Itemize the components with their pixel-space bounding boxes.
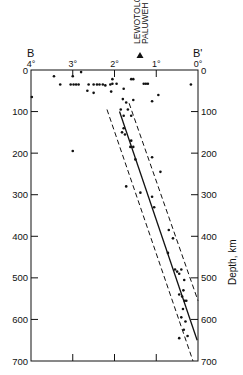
hypocenter-dot bbox=[129, 146, 132, 149]
x-tick-label: 2° bbox=[110, 59, 119, 69]
hypocenter-dot bbox=[132, 146, 135, 149]
y-tick-label-left: 400 bbox=[12, 231, 28, 242]
hypocenter-dot bbox=[125, 101, 128, 104]
hypocenter-dot bbox=[167, 252, 170, 255]
y-tick-label-left: 100 bbox=[12, 106, 28, 117]
y-tick-label-left: 0 bbox=[23, 65, 28, 76]
hypocenter-dot bbox=[92, 83, 95, 86]
hypocenter-dot bbox=[174, 268, 177, 271]
hypocenter-dot bbox=[31, 96, 34, 99]
hypocenter-dot bbox=[182, 308, 185, 311]
hypocenter-dot bbox=[147, 82, 150, 85]
hypocenter-dot bbox=[96, 83, 99, 86]
hypocenter-dot bbox=[184, 320, 187, 323]
hypocenter-dot bbox=[132, 99, 135, 102]
left-depth-axis: 0100200300400500600700 bbox=[12, 65, 38, 367]
hypocenter-dot bbox=[86, 89, 89, 92]
hypocenter-dot bbox=[178, 337, 181, 340]
hypocenter-dot bbox=[127, 108, 130, 111]
hypocenter-dot bbox=[71, 75, 74, 78]
hypocenter-dot bbox=[134, 158, 137, 161]
hypocenter-dot bbox=[122, 114, 125, 117]
slab-lower-bound-line bbox=[129, 103, 198, 300]
hypocenter-dot bbox=[115, 82, 118, 85]
hypocenter-dot bbox=[180, 268, 183, 271]
y-tick-label-right: 100 bbox=[201, 106, 217, 117]
hypocenter-points bbox=[31, 71, 193, 340]
hypocenter-dot bbox=[139, 191, 142, 194]
hypocenter-dot bbox=[121, 131, 124, 134]
x-axis-ticks: 4°3°2°1°0° bbox=[27, 59, 203, 361]
hypocenter-dot bbox=[190, 83, 193, 86]
hypocenter-dot bbox=[71, 150, 74, 153]
x-tick-label: 4° bbox=[27, 59, 36, 69]
y-tick-label-left: 600 bbox=[12, 314, 28, 325]
hypocenter-dot bbox=[183, 329, 186, 332]
hypocenter-dot bbox=[122, 127, 125, 130]
hypocenter-dot bbox=[176, 270, 179, 273]
hypocenter-dot bbox=[92, 92, 95, 95]
y-tick-label-left: 700 bbox=[12, 356, 28, 367]
hypocenter-dot bbox=[111, 82, 114, 85]
hypocenter-dot bbox=[125, 185, 128, 188]
hypocenter-dot bbox=[119, 108, 122, 111]
y-tick-label-right: 300 bbox=[201, 189, 217, 200]
hypocenter-dot bbox=[153, 206, 156, 209]
slab-lines bbox=[107, 103, 198, 361]
hypocenter-dot bbox=[159, 171, 162, 174]
section-label-left: B bbox=[27, 47, 34, 59]
hypocenter-dot bbox=[69, 83, 72, 86]
slab-axis-line bbox=[120, 112, 198, 341]
y-tick-label-right: 200 bbox=[201, 148, 217, 159]
y-tick-label-right: 700 bbox=[201, 356, 217, 367]
hypocenter-dot bbox=[180, 316, 183, 319]
hypocenter-dot bbox=[172, 237, 175, 240]
volcano-annotation: LEWOTOLO PALUWEH bbox=[132, 0, 150, 58]
y-tick-label-left: 300 bbox=[12, 189, 28, 200]
x-tick-label: 1° bbox=[152, 59, 161, 69]
hypocenter-dot bbox=[122, 98, 125, 101]
hypocenter-dot bbox=[178, 272, 181, 275]
slab-upper-bound-line bbox=[107, 109, 193, 361]
hypocenter-dot bbox=[122, 87, 125, 90]
y-tick-label-right: 600 bbox=[201, 314, 217, 325]
hypocenter-dot bbox=[80, 71, 83, 74]
annotation-label-paluweh: PALUWEH bbox=[140, 3, 150, 44]
hypocenter-dot bbox=[77, 83, 80, 86]
depth-cross-section-chart: LEWOTOLO PALUWEH B B' 4°3°2°1°0° 0100200… bbox=[0, 0, 243, 375]
y-tick-label-right: 500 bbox=[201, 272, 217, 283]
hypocenter-dot bbox=[151, 195, 154, 198]
hypocenter-dot bbox=[186, 335, 189, 338]
right-depth-axis: 0100200300400500600700 bbox=[191, 65, 217, 367]
y-tick-label-left: 200 bbox=[12, 148, 28, 159]
hypocenter-dot bbox=[178, 293, 181, 296]
hypocenter-dot bbox=[132, 78, 135, 81]
hypocenter-dot bbox=[157, 94, 160, 97]
hypocenter-dot bbox=[181, 295, 184, 298]
hypocenter-dot bbox=[185, 299, 188, 302]
hypocenter-dot bbox=[59, 83, 62, 86]
hypocenter-dot bbox=[110, 90, 113, 93]
hypocenter-dot bbox=[130, 139, 133, 142]
hypocenter-dot bbox=[182, 289, 185, 292]
volcano-triangle-icon bbox=[137, 52, 144, 58]
hypocenter-dot bbox=[102, 83, 105, 86]
y-tick-label-left: 500 bbox=[12, 272, 28, 283]
hypocenter-dot bbox=[87, 83, 90, 86]
hypocenter-dot bbox=[104, 84, 107, 87]
y-axis-label: Depth, km bbox=[227, 239, 238, 285]
hypocenter-dot bbox=[151, 156, 154, 159]
hypocenter-dot bbox=[111, 78, 114, 81]
hypocenter-dot bbox=[98, 83, 101, 86]
hypocenter-dot bbox=[75, 83, 78, 86]
y-tick-label-right: 400 bbox=[201, 231, 217, 242]
section-label-right: B' bbox=[193, 47, 202, 59]
hypocenter-dot bbox=[167, 229, 170, 232]
hypocenter-dot bbox=[130, 114, 133, 117]
x-tick-label: 3° bbox=[68, 59, 77, 69]
hypocenter-dot bbox=[124, 133, 127, 136]
hypocenter-dot bbox=[183, 279, 186, 282]
hypocenter-dot bbox=[53, 75, 56, 78]
plot-frame bbox=[31, 70, 198, 361]
hypocenter-dot bbox=[72, 83, 75, 86]
